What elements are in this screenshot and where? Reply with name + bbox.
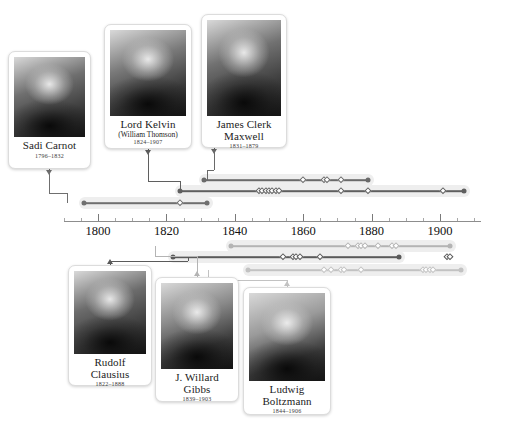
person-dates: 1831–1879 [207,143,281,149]
axis-tick-minor [474,218,475,222]
person-card-kelvin[interactable]: Lord Kelvin(William Thomson)1824–1907 [104,24,192,149]
axis-tick-major [303,214,304,221]
axis-tick-minor [320,218,321,222]
connector-segment [155,256,197,257]
axis-label-1880: 1880 [359,224,384,239]
axis-tick-minor [115,218,116,222]
person-name-line2: Boltzmann [249,396,325,408]
axis-tick-minor [149,218,150,222]
axis-label-1820: 1820 [154,224,179,239]
lifeline-birth-marker[interactable] [202,178,207,183]
connector-segment [67,193,68,203]
person-card-boltzmann[interactable]: LudwigBoltzmann1844–1906 [243,287,331,415]
axis-tick-minor [252,218,253,222]
lifeline-death-marker[interactable] [461,189,466,194]
card-caption: J. WillardGibbs1839–1903 [161,372,233,402]
axis-tick-major [98,214,99,221]
lifeline-death-marker[interactable] [448,244,453,249]
portrait-shading [249,293,325,381]
axis-label-1800: 1800 [86,224,111,239]
portrait-shading [110,30,186,116]
axis-tick-major [166,214,167,221]
lifeline-line [180,190,464,192]
person-card-carnot[interactable]: Sadi Carnot1796–1832 [8,51,91,169]
person-dates: 1844–1906 [249,408,325,414]
connector-arrow [284,281,290,286]
axis-label-1860: 1860 [291,224,316,239]
portrait-shading [74,271,146,354]
axis-tick-minor [184,218,185,222]
lifeline-track-clausius[interactable] [168,251,405,263]
person-name: James Clerk [207,119,281,131]
card-caption: Sadi Carnot1796–1832 [14,140,85,159]
person-card-gibbs[interactable]: J. WillardGibbs1839–1903 [155,277,239,402]
axis-label-1840: 1840 [222,224,247,239]
lifeline-death-marker[interactable] [396,255,401,260]
connector-arrow [107,259,113,264]
lifeline-line [84,202,207,204]
lifeline-death-marker[interactable] [205,201,210,206]
axis-tick-minor [201,218,202,222]
axis-tick-minor [337,218,338,222]
lifeline-line [231,245,450,247]
connector-segment [49,193,67,194]
person-name: Rudolf [74,357,146,369]
card-caption: James ClerkMaxwell1831–1879 [207,119,281,149]
person-dates: 1824–1907 [110,139,186,145]
axis-tick-minor [81,218,82,222]
axis-tick-minor [218,218,219,222]
person-name-line2: Maxwell [207,131,281,143]
axis-tick-major [440,214,441,221]
axis-tick-minor [286,218,287,222]
lifeline-track-kelvin[interactable] [175,185,470,197]
axis-label-1900: 1900 [428,224,453,239]
connector-segment [180,181,181,191]
lifeline-track-gibbs[interactable] [226,240,456,252]
lifeline-track-carnot[interactable] [79,197,213,209]
portrait-shading [161,283,233,369]
connector-segment [155,246,156,256]
card-caption: LudwigBoltzmann1844–1906 [249,384,325,414]
connector-segment [188,257,189,261]
lifeline-track-maxwell[interactable] [199,174,374,186]
connector-segment [110,261,188,262]
axis-tick-minor [355,218,356,222]
card-caption: RudolfClausius1822–1888 [74,357,146,387]
person-dates: 1796–1832 [14,153,85,159]
person-name: J. Willard [161,372,233,384]
person-card-maxwell[interactable]: James ClerkMaxwell1831–1879 [201,14,287,148]
portrait-photo [249,293,325,381]
connector-segment [148,181,180,182]
lifeline-birth-marker[interactable] [82,201,87,206]
connector-arrow [46,170,52,175]
connector-arrow [211,149,217,154]
person-name: Sadi Carnot [14,140,85,152]
timeline-axis-line [64,221,481,222]
timeline-canvas: 180018201840186018801900Sadi Carnot1796–… [0,0,514,447]
person-name-line2: Gibbs [161,384,233,396]
axis-tick-minor [406,218,407,222]
lifeline-death-marker[interactable] [458,268,463,273]
axis-tick-minor [389,218,390,222]
lifeline-track-boltzmann[interactable] [243,264,466,276]
portrait-photo [161,283,233,369]
person-name-line2: Clausius [74,369,146,381]
person-name: Ludwig [249,384,325,396]
lifeline-birth-marker[interactable] [229,244,234,249]
axis-tick-minor [64,218,65,222]
portrait-photo [14,57,85,137]
lifeline-birth-marker[interactable] [246,268,251,273]
axis-tick-minor [132,218,133,222]
lifeline-death-marker[interactable] [366,178,371,183]
axis-tick-major [235,214,236,221]
portrait-shading [207,20,281,116]
person-dates: 1839–1903 [161,396,233,402]
person-card-clausius[interactable]: RudolfClausius1822–1888 [68,265,152,386]
portrait-shading [14,57,85,137]
portrait-photo [74,271,146,354]
card-caption: Lord Kelvin(William Thomson)1824–1907 [110,119,186,146]
person-dates: 1822–1888 [74,381,146,387]
portrait-photo [207,20,281,116]
axis-tick-minor [269,218,270,222]
connector-segment [207,170,208,180]
